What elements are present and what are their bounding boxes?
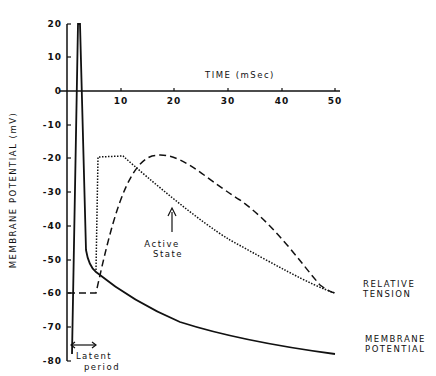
svg-text:-60: -60 [43, 288, 62, 298]
svg-text:10: 10 [47, 52, 62, 62]
svg-text:POTENTIAL: POTENTIAL [365, 344, 426, 354]
svg-text:TENSION: TENSION [362, 289, 411, 299]
svg-text:40: 40 [275, 96, 290, 106]
series-membrane-potential [72, 24, 335, 354]
svg-text:20: 20 [47, 19, 62, 29]
chart: 20 10 0 -10 -20 -30 -40 -50 -60 -70 -80 … [0, 0, 436, 376]
x-tick-labels: 10 20 30 40 50 [114, 96, 343, 106]
series-relative-tension [68, 155, 336, 293]
svg-text:-40: -40 [43, 221, 62, 231]
active-state-label: Active [144, 239, 179, 249]
membrane-potential-label: MEMBRANE [365, 334, 426, 344]
series-active-state [96, 156, 335, 293]
svg-text:30: 30 [221, 96, 236, 106]
svg-text:-80: -80 [43, 356, 62, 366]
x-axis-label: TIME (mSec) [204, 70, 275, 80]
svg-text:-50: -50 [43, 255, 62, 265]
svg-text:-10: -10 [43, 120, 62, 130]
svg-text:-20: -20 [43, 153, 62, 163]
svg-text:-30: -30 [43, 187, 62, 197]
svg-text:20: 20 [167, 96, 182, 106]
relative-tension-label: RELATIVE [363, 279, 415, 289]
y-axis-label: MEMBRANE POTENTIAL (mV) [8, 112, 18, 269]
svg-text:State: State [153, 249, 183, 259]
latent-period-label: Latent [76, 351, 112, 361]
svg-text:10: 10 [114, 96, 129, 106]
svg-text:-70: -70 [43, 322, 62, 332]
svg-text:period: period [84, 362, 120, 372]
y-tick-labels: 20 10 0 -10 -20 -30 -40 -50 -60 -70 -80 [43, 19, 62, 366]
svg-text:50: 50 [328, 96, 343, 106]
